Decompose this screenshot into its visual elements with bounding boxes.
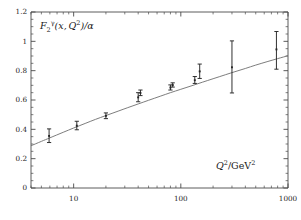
figure-canvas: 0 0.2 0.4 0.6 0.8 1 1.2 10 100 1000 F2γ(… <box>0 0 301 220</box>
y-tick-label-1: 1 <box>1 38 27 45</box>
y-tick-label-0p8: 0.8 <box>1 67 27 74</box>
data-point <box>75 121 79 130</box>
y-tick-label-0: 0 <box>1 184 27 191</box>
y-axis-label-subscript: 2 <box>47 26 51 34</box>
y-axis-label-args: (x, Q <box>55 20 77 31</box>
x-tick-label-10: 10 <box>59 195 89 202</box>
x-axis-label-denominator: /GeV <box>228 160 251 171</box>
x-axis-label-denominator-superscript: 2 <box>251 159 255 167</box>
theory-curve <box>31 56 288 146</box>
y-tick-label-1p2: 1.2 <box>1 8 27 15</box>
data-point <box>193 77 197 84</box>
data-point <box>198 64 202 78</box>
y-tick-label-0p2: 0.2 <box>1 155 27 162</box>
x-axis-label: Q2/GeV2 <box>216 160 255 171</box>
data-point <box>47 129 51 143</box>
x-axis-label-Q: Q <box>216 160 224 171</box>
y-axis-label-F: F <box>40 20 47 31</box>
y-tick-label-0p6: 0.6 <box>1 96 27 103</box>
x-tick-label-100: 100 <box>166 195 196 202</box>
y-axis-label-tail: )/α <box>80 20 93 31</box>
data-points-group <box>47 32 279 143</box>
data-point <box>274 32 278 70</box>
data-point <box>230 41 234 93</box>
x-tick-label-1000: 1000 <box>273 195 301 202</box>
y-tick-label-0p4: 0.4 <box>1 126 27 133</box>
y-axis-label: F2γ(x, Q2)/α <box>40 20 94 34</box>
data-point <box>136 93 140 102</box>
